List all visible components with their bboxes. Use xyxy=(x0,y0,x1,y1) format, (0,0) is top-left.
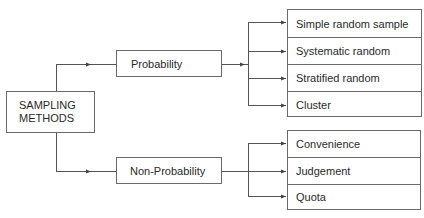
category-node-non-probability: Non-Probability xyxy=(116,157,222,184)
root-label: SAMPLING METHODS xyxy=(19,99,76,125)
category-label: Probability xyxy=(131,58,182,70)
arrowhead-probability-branch xyxy=(240,63,245,67)
method-simple-random-sample: Simple random sample xyxy=(288,10,421,37)
arrowhead-nonprobability xyxy=(86,170,91,174)
method-quota: Quota xyxy=(288,184,420,210)
root-node-sampling-methods: SAMPLING METHODS xyxy=(6,91,95,133)
arrowhead-probability xyxy=(86,63,91,67)
method-convenience: Convenience xyxy=(288,131,420,157)
method-cluster: Cluster xyxy=(288,91,421,118)
method-stratified-random: Stratified random xyxy=(288,64,421,91)
category-label: Non-Probability xyxy=(130,165,205,177)
category-node-probability: Probability xyxy=(116,50,222,77)
method-systematic-random: Systematic random xyxy=(288,37,421,64)
sampling-methods-diagram: SAMPLING METHODS Probability Non-Probabi… xyxy=(0,0,424,218)
non-probability-methods-list: Convenience Judgement Quota xyxy=(287,130,421,210)
method-judgement: Judgement xyxy=(288,157,420,183)
probability-methods-list: Simple random sample Systematic random S… xyxy=(287,9,422,117)
